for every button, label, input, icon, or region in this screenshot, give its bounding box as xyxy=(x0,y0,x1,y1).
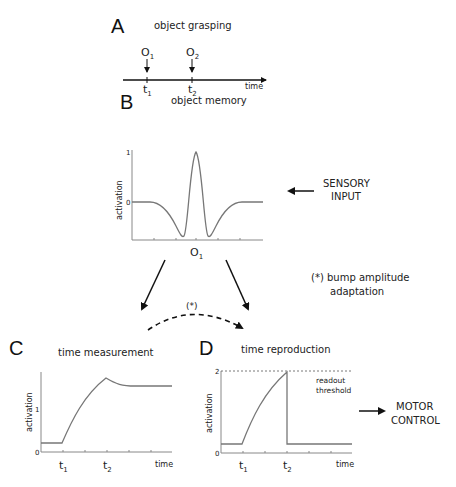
ytick: 2 xyxy=(215,368,219,376)
panel-b-title: object memory xyxy=(171,95,247,106)
threshold-label: readout xyxy=(316,376,345,385)
dashed-adaptation-arrow xyxy=(148,314,242,330)
panel-d-time-label: time xyxy=(336,460,354,469)
panel-a: A object grasping O1 O2 t1 t2 time xyxy=(111,15,266,98)
panel-c-time-label: time xyxy=(155,460,173,469)
panel-a-title: object grasping xyxy=(154,20,232,31)
panel-a-time-label: time xyxy=(245,82,263,91)
panel-b-letter: B xyxy=(120,91,133,113)
panel-d-ylabel: activation xyxy=(205,393,214,433)
time-t1: t1 xyxy=(143,83,152,98)
mexican-hat-curve xyxy=(132,152,263,237)
ytick: 0 xyxy=(126,199,130,207)
panel-a-letter: A xyxy=(111,15,125,37)
xtick-t1: t1 xyxy=(239,459,248,474)
adaptation-label: adaptation xyxy=(330,286,384,297)
event-o1: O1 xyxy=(141,46,154,61)
adaptation-marker: (*) xyxy=(186,301,198,311)
diagram: A object grasping O1 O2 t1 t2 time B obj… xyxy=(0,0,456,487)
ytick: 0 xyxy=(215,450,219,458)
panel-c-ylabel: activation xyxy=(25,392,34,432)
motor-label: CONTROL xyxy=(391,415,440,426)
panel-d-title: time reproduction xyxy=(241,344,331,355)
event-o2: O2 xyxy=(186,46,199,61)
sensory-input: SENSORY INPUT xyxy=(289,178,371,202)
measurement-curve xyxy=(41,378,172,443)
ytick: 1 xyxy=(126,149,130,157)
panel-c: C time measurement 1 0 activation t1 t2 … xyxy=(9,337,173,474)
xtick-t1: t1 xyxy=(59,459,68,474)
panel-b-ylabel: activation xyxy=(115,180,124,220)
panel-b-xlabel: O1 xyxy=(190,246,203,261)
arrow-b-to-d xyxy=(226,260,248,309)
panel-d-letter: D xyxy=(199,337,213,359)
sensory-label: SENSORY xyxy=(323,178,371,189)
panel-c-title: time measurement xyxy=(58,347,154,358)
panel-c-letter: C xyxy=(9,337,23,359)
motor-control: MOTOR CONTROL xyxy=(359,401,440,426)
adaptation-label: (*) bump amplitude xyxy=(311,272,409,283)
arrow-b-to-c xyxy=(142,260,165,309)
ytick: 0 xyxy=(35,449,39,457)
threshold-label: threshold xyxy=(316,386,352,395)
panel-b: B object memory 1 0 activation O1 xyxy=(115,91,263,261)
motor-label: MOTOR xyxy=(396,401,433,412)
xtick-t2: t2 xyxy=(103,459,112,474)
sensory-label: INPUT xyxy=(331,191,362,202)
ytick: 1 xyxy=(35,406,39,414)
xtick-t2: t2 xyxy=(283,459,292,474)
panel-d: D time reproduction 2 0 activation reado… xyxy=(199,337,354,474)
